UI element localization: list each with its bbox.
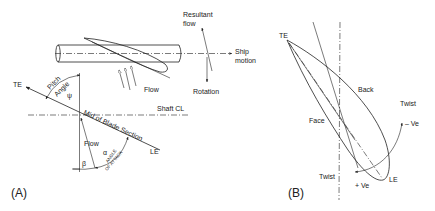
minus-ve-label: – Ve bbox=[405, 120, 419, 127]
panel-b: TE Back Twist – Ve Face Twist + Ve LE (B… bbox=[279, 22, 419, 200]
flow-arrows-top bbox=[119, 66, 136, 90]
twist-arrow bbox=[355, 123, 402, 172]
blade-section-top bbox=[84, 38, 170, 78]
propeller-blade-diagram: Flow Resultant flow Ship motion Rotation… bbox=[0, 0, 435, 211]
te-label-a: TE bbox=[13, 81, 22, 88]
plus-ve-label: + Ve bbox=[355, 182, 369, 189]
resultant-flow-label-2: flow bbox=[183, 20, 196, 27]
panel-b-tag: (B) bbox=[288, 186, 304, 200]
ship-motion-label-1: Ship bbox=[235, 48, 249, 56]
psi-symbol: ψ bbox=[67, 92, 72, 100]
flow-label-top: Flow bbox=[144, 86, 160, 93]
vertical-reference-b bbox=[339, 22, 340, 200]
panel-a: Flow Resultant flow Ship motion Rotation… bbox=[11, 11, 256, 200]
te-label-b: TE bbox=[279, 32, 288, 39]
twist-label-bottom: Twist bbox=[319, 173, 335, 180]
blade-outline-b bbox=[287, 40, 389, 180]
velocity-vectors bbox=[202, 28, 212, 82]
shaft-cl-label: Shaft CL bbox=[157, 105, 184, 112]
beta-symbol: β bbox=[82, 160, 86, 168]
ship-motion-label-2: motion bbox=[235, 57, 256, 64]
back-label: Back bbox=[358, 86, 374, 93]
flow-label-lower: Flow bbox=[84, 140, 100, 147]
rotation-label: Rotation bbox=[193, 88, 219, 95]
alpha-symbol: α bbox=[103, 149, 107, 156]
le-label-a: LE bbox=[150, 148, 159, 155]
mid-blade-section-label: Mid of Blade Section bbox=[83, 109, 144, 143]
panel-a-tag: (A) bbox=[11, 186, 27, 200]
skew-line bbox=[313, 22, 358, 168]
twist-label-top: Twist bbox=[400, 100, 416, 107]
face-label: Face bbox=[309, 117, 325, 124]
resultant-flow-label-1: Resultant bbox=[183, 11, 213, 18]
le-label-b: LE bbox=[389, 176, 398, 183]
